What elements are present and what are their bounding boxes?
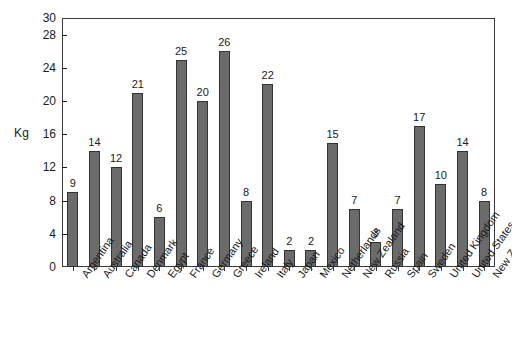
x-tick-mark xyxy=(376,267,377,271)
x-tick-label: United Kingdom xyxy=(447,273,457,280)
x-tick-mark xyxy=(181,267,182,271)
x-tick-mark xyxy=(441,267,442,271)
x-tick-label: Japan xyxy=(295,273,305,280)
x-tick-label: France xyxy=(187,273,197,280)
y-tick-mark xyxy=(62,201,67,202)
x-tick-mark xyxy=(289,267,290,271)
x-tick-label: Ireland xyxy=(252,273,262,280)
y-tick-mark xyxy=(62,234,67,235)
x-tick-mark xyxy=(138,267,139,271)
y-tick-mark xyxy=(62,68,67,69)
x-tick-label: Denmark xyxy=(144,273,154,280)
y-tick-mark xyxy=(62,101,67,102)
x-tick-mark xyxy=(73,267,74,271)
x-axis-tick-labels: ArgentinaAustraliaCanadaDenmarkEgyptFran… xyxy=(0,0,512,364)
x-tick-mark xyxy=(94,267,95,271)
x-tick-mark xyxy=(268,267,269,271)
x-tick-label: Russia xyxy=(382,273,392,280)
y-tick-mark xyxy=(62,167,67,168)
y-tick-mark xyxy=(62,134,67,135)
x-tick-label: Egypt xyxy=(165,273,175,280)
x-tick-label: Mexico xyxy=(317,273,327,280)
x-tick-mark xyxy=(398,267,399,271)
x-tick-mark xyxy=(116,267,117,271)
x-tick-label: United States xyxy=(469,273,479,280)
x-tick-mark xyxy=(311,267,312,271)
y-tick-mark xyxy=(62,35,67,36)
x-tick-label: Australia xyxy=(100,273,110,280)
x-tick-mark xyxy=(484,267,485,271)
x-tick-mark xyxy=(246,267,247,271)
x-tick-mark xyxy=(463,267,464,271)
x-tick-mark xyxy=(203,267,204,271)
x-tick-mark xyxy=(419,267,420,271)
x-tick-label: New Zealand xyxy=(490,273,500,280)
x-tick-label: New Zealand xyxy=(360,273,370,280)
x-tick-mark xyxy=(333,267,334,271)
x-tick-label: Canada xyxy=(122,273,132,280)
x-tick-label: Sweden xyxy=(425,273,435,280)
x-tick-mark xyxy=(159,267,160,271)
x-tick-label: Netherlands xyxy=(339,273,349,280)
bar-chart: Kg 048121620242830 914122162520268222215… xyxy=(0,0,512,364)
x-tick-label: Greece xyxy=(230,273,240,280)
x-tick-mark xyxy=(224,267,225,271)
x-tick-label: Germany xyxy=(209,273,219,280)
x-tick-label: Argentina xyxy=(79,273,89,280)
x-tick-label: Spain xyxy=(404,273,414,280)
x-tick-label: Italy xyxy=(274,273,284,280)
x-tick-mark xyxy=(354,267,355,271)
